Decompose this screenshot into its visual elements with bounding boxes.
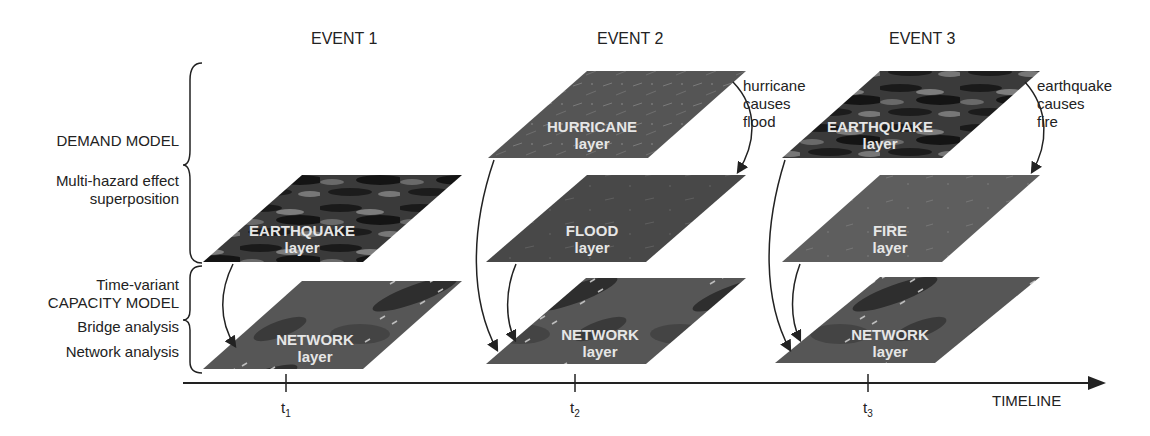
label-network-analysis: Network analysis xyxy=(66,342,179,361)
event1-title: EVENT 1 xyxy=(311,30,377,48)
layer-sub: layer xyxy=(532,239,652,256)
event2-hurricane-to-network-arrow xyxy=(476,160,497,350)
label-demand-model: DEMAND MODEL xyxy=(56,131,179,150)
label-time-variant: Time-variant xyxy=(96,275,179,294)
capacity-brace xyxy=(183,266,202,373)
tick-sub: 2 xyxy=(574,408,580,419)
tick-sub: 1 xyxy=(285,408,291,419)
event3-cause-line2: causes xyxy=(1037,95,1112,113)
layer-name: NETWORK xyxy=(255,331,375,348)
event2-cause-line3: flood xyxy=(743,113,806,131)
layer-sub: layer xyxy=(830,343,950,360)
event3-cause-line1: earthquake xyxy=(1037,77,1112,95)
event2-cause-line1: hurricane xyxy=(743,77,806,95)
event3-cause: earthquake causes fire xyxy=(1037,77,1112,131)
layer-sub: layer xyxy=(540,343,660,360)
tick-sub: 3 xyxy=(867,408,873,419)
event2-cause: hurricane causes flood xyxy=(743,77,806,131)
layer-name: NETWORK xyxy=(830,326,950,343)
event2-hurricane-label: HURRICANE layer xyxy=(512,118,672,152)
label-bridge-analysis: Bridge analysis xyxy=(77,317,179,336)
event3-network-label: NETWORK layer xyxy=(830,326,950,360)
layer-sub: layer xyxy=(830,239,950,256)
tick-label-t1: t1 xyxy=(281,399,291,419)
tick-label-t2: t2 xyxy=(570,399,580,419)
multi-hazard-diagram: DEMAND MODEL Multi-hazard effect superpo… xyxy=(0,0,1150,436)
event3-fire-label: FIRE layer xyxy=(830,222,950,256)
event2-flood-to-network-arrow xyxy=(508,264,516,340)
layer-name: HURRICANE xyxy=(512,118,672,135)
layer-name: FIRE xyxy=(830,222,950,239)
layer-sub: layer xyxy=(512,135,672,152)
layer-name: NETWORK xyxy=(540,326,660,343)
event1-network-label: NETWORK layer xyxy=(255,331,375,365)
layer-sub: layer xyxy=(800,135,960,152)
event1-earthquake-label: EARTHQUAKE layer xyxy=(222,222,382,256)
tick-label-t3: t3 xyxy=(863,399,873,419)
event3-eq-to-network-arrow xyxy=(769,160,790,350)
timeline-label: TIMELINE xyxy=(992,392,1061,409)
event2-flood-label: FLOOD layer xyxy=(532,222,652,256)
label-superposition: superposition xyxy=(90,189,179,208)
timeline-arrow-icon xyxy=(1088,376,1106,390)
diagram-canvas xyxy=(0,0,1150,436)
label-capacity-model: CAPACITY MODEL xyxy=(48,293,179,312)
event1-eq-to-network-arrow xyxy=(223,264,235,346)
event2-cause-line2: causes xyxy=(743,95,806,113)
layer-name: EARTHQUAKE xyxy=(222,222,382,239)
event3-title: EVENT 3 xyxy=(889,30,955,48)
event2-network-label: NETWORK layer xyxy=(540,326,660,360)
layer-name: EARTHQUAKE xyxy=(800,118,960,135)
event2-title: EVENT 2 xyxy=(597,30,663,48)
layer-sub: layer xyxy=(255,348,375,365)
demand-brace xyxy=(183,63,202,263)
event3-cause-line3: fire xyxy=(1037,113,1112,131)
layer-sub: layer xyxy=(222,239,382,256)
label-multi-hazard: Multi-hazard effect xyxy=(56,171,179,190)
layer-name: FLOOD xyxy=(532,222,652,239)
event3-fire-to-network-arrow xyxy=(793,264,801,340)
event3-earthquake-label: EARTHQUAKE layer xyxy=(800,118,960,152)
